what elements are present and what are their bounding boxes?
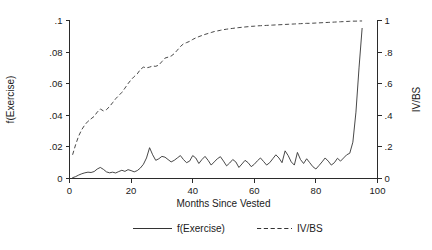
y-tick-label-right-1: .2 [385, 141, 393, 152]
y-tick-label-left-5: .1 [55, 15, 63, 26]
x-tick-label-5: 100 [370, 185, 386, 196]
y-tick-label-left-3: .06 [49, 78, 62, 89]
y-tick-label-left-2: .04 [49, 110, 62, 121]
x-tick-label-1: 20 [126, 185, 137, 196]
y-tick-label-right-3: .6 [385, 78, 393, 89]
y-tick-label-right-4: .8 [385, 47, 393, 58]
y-tick-label-left-4: .08 [49, 47, 62, 58]
chart-background [0, 0, 432, 250]
y-tick-label-right-5: 1 [385, 15, 390, 26]
chart-figure: 0.02.04.06.08.10.2.4.6.81020406080100f(E… [0, 0, 432, 250]
y-tick-label-left-1: .02 [49, 141, 62, 152]
y-axis-left-title: f(Exercise) [5, 76, 16, 124]
x-tick-label-0: 0 [67, 185, 72, 196]
y-tick-label-left-0: 0 [57, 173, 62, 184]
x-tick-label-3: 60 [249, 185, 260, 196]
legend-label-0: f(Exercise) [177, 223, 225, 234]
x-tick-label-2: 40 [187, 185, 198, 196]
y-tick-label-right-2: .4 [385, 110, 393, 121]
y-axis-right-title: IV/BS [411, 86, 422, 112]
y-tick-label-right-0: 0 [385, 173, 390, 184]
chart-canvas: 0.02.04.06.08.10.2.4.6.81020406080100f(E… [0, 0, 432, 250]
legend-label-1: IV/BS [297, 223, 323, 234]
x-axis-title: Months Since Vested [177, 198, 271, 209]
x-tick-label-4: 80 [311, 185, 322, 196]
